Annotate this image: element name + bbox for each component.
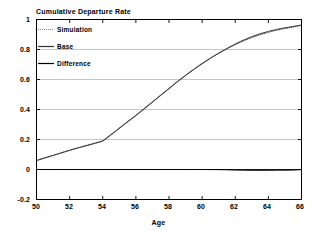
plot-area bbox=[0, 0, 317, 237]
gridlines bbox=[37, 50, 302, 140]
legend-line-samples bbox=[38, 30, 54, 64]
chart-figure: Cumulative Departure Rate 1 0.8 0.6 0.4 … bbox=[0, 0, 317, 237]
data-series bbox=[37, 25, 302, 170]
